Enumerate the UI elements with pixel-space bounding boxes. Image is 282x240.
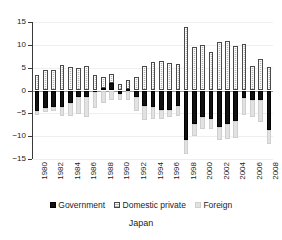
bar-group <box>60 22 65 159</box>
bar-group <box>126 22 131 159</box>
legend-item[interactable]: Government <box>50 200 105 210</box>
y-tick-mark <box>28 159 32 160</box>
bar-group <box>68 22 73 159</box>
y-tick-label: 10 <box>2 41 26 49</box>
bar-segment-for <box>60 107 65 115</box>
bar-segment-for <box>250 100 255 118</box>
bar-segment-for <box>159 110 164 120</box>
x-tick-label: 1990 <box>123 162 131 180</box>
bar-segment-gov <box>35 91 40 111</box>
bar-segment-gov <box>250 91 255 100</box>
bar-segment-for <box>93 92 98 108</box>
x-tick-label: 1980 <box>41 162 49 180</box>
bar-segment-gov <box>200 91 205 118</box>
bar-segment-for <box>51 107 56 111</box>
bar-segment-gov <box>192 91 197 125</box>
chart-figure: 151050−5−10−15 1980198219841986198819901… <box>0 0 282 240</box>
bar-segment-for <box>176 106 181 116</box>
bar-group <box>134 22 139 159</box>
bar-segment-gov <box>76 91 81 98</box>
bar-segment-dom <box>43 70 48 90</box>
bar-group <box>151 22 156 159</box>
x-tick-label: 1982 <box>57 162 65 180</box>
bar-segment-gov <box>60 91 65 108</box>
bar-segment-dom <box>60 65 65 91</box>
bar-segment-for <box>242 98 247 115</box>
y-tick-label: 0 <box>2 87 26 95</box>
bar-segment-for <box>151 107 156 119</box>
bar-segment-for <box>192 124 197 136</box>
bar-segment-gov <box>217 91 222 127</box>
legend-label: Domestic private <box>123 200 186 210</box>
bar-segment-for <box>126 91 131 101</box>
bar-group <box>242 22 247 159</box>
bar-group <box>176 22 181 159</box>
bar-segment-dom <box>250 66 255 91</box>
bar-segment-for <box>167 110 172 116</box>
bar-segment-gov <box>142 91 147 106</box>
legend-swatch-gov-icon <box>50 202 56 208</box>
bar-group <box>225 22 230 159</box>
bar-group <box>250 22 255 159</box>
bar-segment-gov <box>176 91 181 106</box>
bar-group <box>101 22 106 159</box>
y-tick-mark <box>28 22 32 23</box>
bar-segment-gov <box>159 91 164 110</box>
bar-segment-dom <box>200 45 205 91</box>
bar-segment-for <box>35 111 40 116</box>
bar-segment-dom <box>151 62 156 91</box>
bar-group <box>109 22 114 159</box>
bar-group <box>258 22 263 159</box>
x-tick-label: 2000 <box>206 162 214 180</box>
bar-segment-for <box>217 127 222 140</box>
bar-segment-for <box>118 94 123 100</box>
bar-segment-for <box>43 108 48 113</box>
bar-segment-gov <box>43 91 48 108</box>
bar-segment-gov <box>134 91 139 98</box>
bar-segment-for <box>142 106 147 120</box>
bar-group <box>217 22 222 159</box>
bar-group <box>200 22 205 159</box>
chart-caption: Japan <box>0 218 282 229</box>
legend-item[interactable]: Domestic private <box>114 200 186 210</box>
legend-item[interactable]: Foreign <box>195 200 232 210</box>
y-tick-mark <box>28 91 32 92</box>
legend-label: Foreign <box>203 200 232 210</box>
bar-segment-dom <box>76 68 81 91</box>
bar-segment-for <box>84 97 89 117</box>
bar-segment-for <box>109 91 114 100</box>
bar-segment-for <box>233 121 238 138</box>
bar-segment-gov <box>233 91 238 121</box>
bar-segment-dom <box>192 47 197 90</box>
x-tick-label: 1988 <box>107 162 115 180</box>
bar-group <box>84 22 89 159</box>
x-tick-label: 1992 <box>140 162 148 180</box>
bar-group <box>51 22 56 159</box>
bar-group <box>209 22 214 159</box>
bar-segment-dom <box>184 27 189 90</box>
y-tick-label: 15 <box>2 18 26 26</box>
bar-segment-dom <box>159 61 164 91</box>
bar-group <box>118 22 123 159</box>
bar-segment-gov <box>242 91 247 98</box>
y-tick-label: 5 <box>2 64 26 72</box>
bar-group <box>267 22 272 159</box>
x-tick-label: 2006 <box>256 162 264 180</box>
bar-segment-dom <box>176 64 181 91</box>
bar-group <box>142 22 147 159</box>
bar-segment-gov <box>184 91 189 141</box>
bar-segment-for <box>184 140 189 154</box>
bar-segment-gov <box>109 83 114 90</box>
bar-segment-gov <box>51 91 56 107</box>
y-tick-label: −10 <box>2 132 26 140</box>
bar-segment-dom <box>142 66 147 90</box>
bar-group <box>93 22 98 159</box>
y-tick-mark <box>28 45 32 46</box>
bar-segment-for <box>134 97 139 111</box>
bar-segment-dom <box>267 67 272 91</box>
bar-segment-dom <box>84 66 89 90</box>
bar-segment-dom <box>134 77 139 90</box>
bar-segment-gov <box>68 91 73 103</box>
bar-group <box>159 22 164 159</box>
bar-segment-gov <box>167 91 172 111</box>
